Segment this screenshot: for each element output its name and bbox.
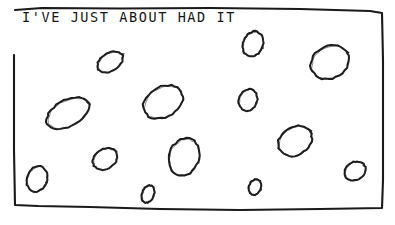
cartoon-drawing [0, 0, 395, 225]
cartoon-panel: I'VE JUST ABOUT HAD IT [0, 0, 395, 225]
caption-text: I'VE JUST ABOUT HAD IT [22, 11, 236, 25]
panel-background [0, 0, 395, 225]
